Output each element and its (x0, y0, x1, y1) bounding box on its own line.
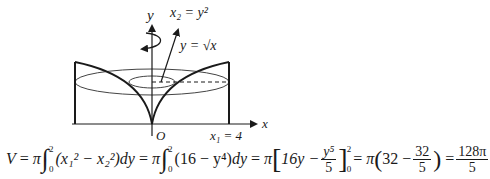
fraction-y5-over-5: y⁵5 (321, 144, 336, 175)
integral-sign: ∫ (42, 146, 49, 172)
formula-pi: π (33, 150, 41, 168)
integral-sign-2: ∫ (161, 146, 168, 172)
step3: 32 − (382, 150, 411, 168)
formula-eq-3: = (251, 150, 260, 168)
eval-limits: 20 (347, 144, 352, 174)
volume-formula: V = π ∫ 20 (x₁² − x₂²) dy = π ∫ 20 (16 −… (6, 140, 490, 178)
dy-2: dy (232, 150, 247, 168)
result-fraction: 128π5 (456, 144, 488, 175)
formula-eq-4: = (353, 150, 362, 168)
fraction-32-over-5: 325 (413, 144, 431, 175)
formula-eq-5: = (445, 150, 454, 168)
pointer-arrow (161, 30, 178, 82)
x2-curve-label: x₂ = y² (169, 5, 209, 20)
formula-pi-3: π (264, 150, 272, 168)
integrand-2: (16 − y⁴) (175, 150, 232, 168)
x-axis-label: x (261, 116, 268, 131)
y-axis-label: y (145, 7, 154, 23)
dy-1: dy (120, 150, 135, 168)
antiderivative: 16y − (281, 150, 319, 168)
formula-eq: = (20, 150, 29, 168)
integrand-1: (x₁² − x₂²) (55, 150, 119, 168)
rotation-arrow-icon (142, 33, 161, 49)
integral-limits: 20 (49, 144, 54, 174)
formula-eq-2: = (139, 150, 148, 168)
formula-pi-4: π (366, 150, 374, 168)
sqrt-curve-label: y = √x (178, 38, 217, 53)
formula-pi-2: π (152, 150, 160, 168)
integral-limits-2: 20 (168, 144, 173, 174)
formula-lhs: V (6, 150, 16, 168)
